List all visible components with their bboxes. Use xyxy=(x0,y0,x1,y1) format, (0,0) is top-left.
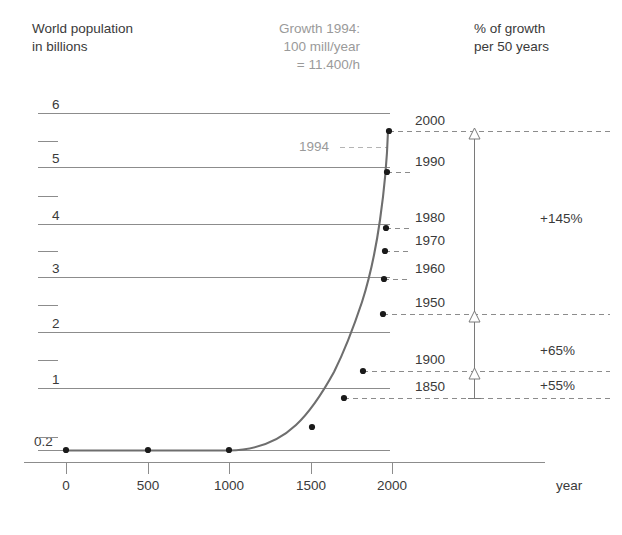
data-point-year-1700 xyxy=(309,424,315,430)
data-point-year-0 xyxy=(63,447,69,453)
data-point-year-1900 xyxy=(360,368,366,374)
data-point-year-1970 xyxy=(382,248,388,254)
data-point-year-500 xyxy=(145,447,151,453)
data-point-year-1950 xyxy=(380,311,386,317)
data-point-year-1850 xyxy=(341,395,347,401)
population-growth-chart: World populationin billions Growth 1994:… xyxy=(0,0,622,535)
data-point-year-2000 xyxy=(386,128,392,134)
growth-bracket xyxy=(468,128,481,399)
data-point-year-1980 xyxy=(383,225,389,231)
data-point-year-1000 xyxy=(226,447,232,453)
bracket-arrow-1950 xyxy=(469,311,480,322)
data-point-year-1990 xyxy=(384,169,390,175)
horizontal-gridlines xyxy=(38,114,390,451)
y-axis-minor-ticks xyxy=(38,142,58,438)
year-dashed-connectors xyxy=(344,132,610,399)
x-axis xyxy=(24,463,545,474)
data-point-year-1960 xyxy=(381,276,387,282)
bracket-arrow-2000 xyxy=(469,128,480,139)
bracket-arrow-1900 xyxy=(469,368,480,379)
population-curve xyxy=(66,131,388,451)
data-points xyxy=(63,128,392,453)
plot-area xyxy=(0,0,622,535)
